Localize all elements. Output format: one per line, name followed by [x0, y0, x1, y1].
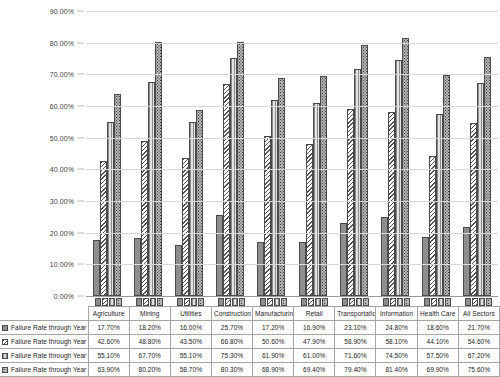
- pattern-key-swatch: [383, 298, 389, 306]
- table-value-cell: 18.20%: [129, 321, 170, 335]
- pattern-key-cell: [211, 296, 252, 307]
- bar: [175, 245, 182, 296]
- bar: [93, 240, 100, 296]
- category-header-cell: Transportation: [335, 307, 376, 321]
- pattern-key-swatch: [322, 298, 328, 306]
- table-value-cell: 75.30%: [211, 349, 252, 363]
- data-table: AgricultureMiningUtilitiesConstructionMa…: [0, 296, 500, 377]
- plot-wrapper: 90.00%80.00%70.00%60.00%50.00%40.00%30.0…: [0, 0, 500, 296]
- gridline: [86, 201, 498, 202]
- y-tick-mark: [77, 232, 84, 233]
- table-value-cell: 48.80%: [129, 335, 170, 349]
- pattern-key-swatch: [274, 298, 280, 306]
- table-value-cell: 47.90%: [294, 335, 335, 349]
- table-value-cell: 21.70%: [458, 321, 499, 335]
- pattern-key-cell: [294, 296, 335, 307]
- y-tick-mark: [77, 137, 84, 138]
- legend-label: Failure Rate through Year 5: [11, 338, 88, 345]
- category-header-cell: Health Care: [417, 307, 458, 321]
- pattern-key-swatch: [342, 298, 348, 306]
- bar-group: [457, 0, 498, 296]
- pattern-key-swatch: [143, 298, 149, 306]
- table-value-cell: 81.40%: [376, 363, 417, 377]
- pattern-key-swatch: [136, 298, 142, 306]
- bar: [429, 156, 436, 296]
- bar: [216, 215, 223, 296]
- table-value-cell: 63.90%: [88, 363, 129, 377]
- bar: [134, 238, 141, 296]
- table-value-cell: 24.80%: [376, 321, 417, 335]
- pattern-key-cell: [129, 296, 170, 307]
- pattern-key-swatch: [363, 298, 369, 306]
- gridline: [86, 11, 498, 12]
- pattern-key-swatch: [191, 298, 197, 306]
- table-row: Failure Rate through Year 542.60%48.80%4…: [0, 335, 500, 349]
- bar: [470, 123, 477, 296]
- pattern-key-swatch: [438, 298, 444, 306]
- table-value-cell: 58.70%: [170, 363, 211, 377]
- bar-group: [127, 0, 168, 296]
- table-value-cell: 80.30%: [211, 363, 252, 377]
- table-value-cell: 55.10%: [170, 349, 211, 363]
- bar-group: [374, 0, 415, 296]
- table-value-cell: 74.50%: [376, 349, 417, 363]
- category-header-cell: Agriculture: [88, 307, 129, 321]
- pattern-key-swatch: [356, 298, 362, 306]
- table-value-cell: 54.60%: [458, 335, 499, 349]
- bar: [340, 223, 347, 296]
- pattern-key-swatch: [157, 298, 163, 306]
- table-value-cell: 55.10%: [88, 349, 129, 363]
- pattern-key-swatch: [116, 298, 122, 306]
- bar-groups: [86, 0, 498, 296]
- table-value-cell: 16.00%: [170, 321, 211, 335]
- legend-swatch-icon: [2, 353, 8, 359]
- table-value-cell: 66.80%: [211, 335, 252, 349]
- pattern-key-swatch: [424, 298, 430, 306]
- bar: [299, 242, 306, 296]
- gridline: [86, 233, 498, 234]
- pattern-key-cell: [253, 296, 294, 307]
- bar: [484, 57, 491, 296]
- y-tick-label: 50.00%: [50, 134, 74, 141]
- bar: [271, 100, 278, 296]
- bar: [320, 76, 327, 296]
- gridline: [86, 106, 498, 107]
- pattern-key-swatch: [267, 298, 273, 306]
- pattern-key-swatch: [95, 298, 101, 306]
- legend-label: Failure Rate through Year 1: [11, 324, 88, 331]
- pattern-key-swatch: [198, 298, 204, 306]
- gridline: [86, 264, 498, 265]
- pattern-key-swatch: [390, 298, 396, 306]
- y-tick-mark: [77, 201, 84, 202]
- bar: [114, 94, 121, 296]
- bar: [422, 237, 429, 296]
- pattern-key-swatch: [218, 298, 224, 306]
- bar: [354, 69, 361, 296]
- y-tick-label: 40.00%: [50, 166, 74, 173]
- gridline: [86, 169, 498, 170]
- pattern-key-cell: [335, 296, 376, 307]
- y-tick-label: 10.00%: [50, 261, 74, 268]
- legend-entry: Failure Rate through Year 5: [0, 335, 88, 349]
- table-value-cell: 68.90%: [253, 363, 294, 377]
- pattern-key-swatch: [177, 298, 183, 306]
- y-tick-label: 90.00%: [50, 8, 74, 15]
- bar-group: [416, 0, 457, 296]
- table-value-cell: 23.10%: [335, 321, 376, 335]
- legend-swatch-icon: [2, 325, 8, 331]
- gridline: [86, 74, 498, 75]
- table-value-cell: 18.60%: [417, 321, 458, 335]
- pattern-key-swatch: [260, 298, 266, 306]
- pattern-key-swatch: [301, 298, 307, 306]
- y-tick-label: 60.00%: [50, 103, 74, 110]
- y-axis: 90.00%80.00%70.00%60.00%50.00%40.00%30.0…: [0, 0, 86, 296]
- table-value-cell: 79.40%: [335, 363, 376, 377]
- y-tick-mark: [77, 264, 84, 265]
- y-tick-mark: [77, 169, 84, 170]
- table-value-cell: 17.20%: [253, 321, 294, 335]
- pattern-key-cell: [376, 296, 417, 307]
- table-header-row: AgricultureMiningUtilitiesConstructionMa…: [0, 307, 500, 321]
- bar: [436, 114, 443, 296]
- bar: [230, 58, 237, 296]
- table-value-cell: 50.60%: [253, 335, 294, 349]
